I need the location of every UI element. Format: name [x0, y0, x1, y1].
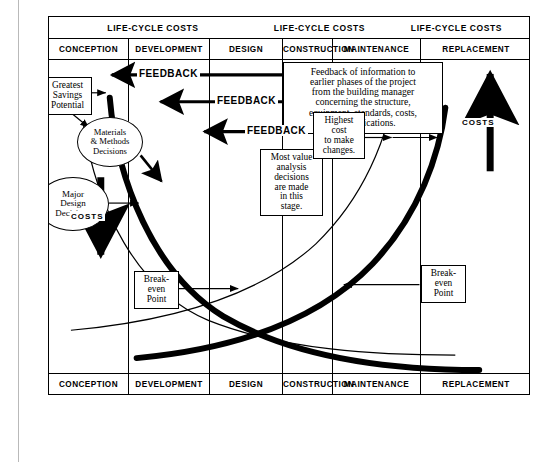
highest-cost-line-4: changes. — [316, 146, 362, 156]
costs-label-down: COSTS — [70, 212, 105, 221]
phase-header-design: DESIGN — [209, 39, 282, 60]
diagram-frame: LIFE-CYCLE COSTS LIFE-CYCLE COSTS LIFE-C… — [48, 16, 530, 395]
phase-footer-design: DESIGN — [209, 374, 282, 395]
page-canvas: LIFE-CYCLE COSTS LIFE-CYCLE COSTS LIFE-C… — [0, 0, 552, 462]
greatest-savings-potential-box: Greatest Savings Potential — [49, 77, 92, 115]
lifecycle-costs-band: LIFE-CYCLE COSTS LIFE-CYCLE COSTS LIFE-C… — [49, 17, 529, 39]
breakeven-left-line-3: Point — [137, 295, 176, 305]
costs-label-up: COSTS — [461, 118, 496, 127]
phase-header-conception: CONCEPTION — [49, 39, 128, 60]
feedback-label-3: FEEDBACK — [245, 125, 308, 136]
lifecycle-costs-label-3: LIFE-CYCLE COSTS — [382, 17, 531, 39]
phase-footer-row: CONCEPTION DEVELOPMENT DESIGN CONSTRUCTI… — [49, 373, 529, 394]
lifecycle-costs-label-2: LIFE-CYCLE COSTS — [257, 17, 382, 39]
phase-footer-conception: CONCEPTION — [49, 374, 128, 395]
phase-header-construction: CONSTRUCTION — [282, 39, 332, 60]
feedback-label-1: FEEDBACK — [137, 68, 200, 79]
phase-header-row: CONCEPTION DEVELOPMENT DESIGN CONSTRUCTI… — [49, 39, 529, 60]
breakeven-point-box-right: Break- even Point — [421, 265, 466, 303]
phase-footer-development: DEVELOPMENT — [128, 374, 209, 395]
materials-methods-pointer — [141, 155, 162, 181]
most-value-line-6: stage. — [263, 202, 320, 212]
feedback-label-2: FEEDBACK — [215, 95, 278, 106]
phase-footer-maintenance: MAINTENANCE — [332, 374, 420, 395]
page-margin-rule — [18, 0, 19, 462]
phase-header-replacement: REPLACEMENT — [420, 39, 531, 60]
phase-footer-construction: CONSTRUCTION — [282, 374, 332, 395]
highest-cost-box: Highest cost to make changes. — [313, 112, 365, 159]
materials-methods-decisions-ellipse: Materials & Methods Decisions — [77, 117, 143, 167]
phase-header-maintenance: MAINTENANCE — [332, 39, 420, 60]
lifecycle-costs-label-1: LIFE-CYCLE COSTS — [49, 17, 257, 39]
phase-footer-replacement: REPLACEMENT — [420, 374, 531, 395]
plot-area: Feedback of information to earlier phase… — [49, 60, 529, 373]
phase-header-development: DEVELOPMENT — [128, 39, 209, 60]
breakeven-point-box-left: Break- even Point — [134, 271, 179, 309]
greatest-savings-line-3: Potential — [49, 101, 89, 111]
breakeven-right-line-3: Point — [424, 289, 463, 299]
materials-methods-line-3: Decisions — [91, 147, 130, 156]
